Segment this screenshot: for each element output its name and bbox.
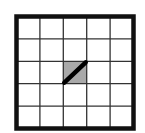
- grid-diagram: [14, 14, 136, 131]
- grid-canvas: [14, 14, 136, 131]
